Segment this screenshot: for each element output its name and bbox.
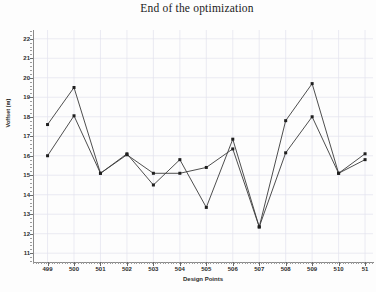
x-minor-tick: [372, 262, 373, 264]
x-minor-tick: [194, 262, 195, 264]
x-minor-tick: [242, 262, 243, 264]
y-tick-label: 14: [4, 192, 30, 198]
x-minor-tick: [340, 262, 341, 264]
y-minor-tick: [30, 144, 32, 145]
x-minor-tick: [67, 262, 68, 264]
y-minor-tick: [30, 66, 32, 67]
y-minor-tick: [30, 70, 32, 71]
x-minor-tick: [295, 262, 296, 264]
y-minor-tick: [30, 226, 32, 227]
x-minor-tick: [351, 262, 352, 264]
x-minor-tick: [120, 262, 121, 264]
x-minor-tick: [160, 262, 161, 264]
x-minor-tick: [118, 262, 119, 264]
y-tick-label: 18: [4, 114, 30, 120]
y-tick-label: 12: [4, 231, 30, 237]
x-minor-tick: [247, 262, 248, 264]
x-minor-tick: [36, 262, 37, 264]
x-minor-tick: [200, 262, 201, 264]
y-tick-label: 15: [4, 172, 30, 178]
y-minor-tick: [30, 50, 32, 51]
y-minor-tick: [30, 31, 32, 32]
y-minor-tick: [30, 132, 32, 133]
x-minor-tick: [54, 262, 55, 264]
x-minor-tick: [261, 262, 262, 264]
x-minor-tick: [184, 262, 185, 264]
x-minor-tick: [287, 262, 288, 264]
y-minor-tick: [30, 242, 32, 243]
x-minor-tick: [202, 262, 203, 264]
x-minor-tick: [321, 262, 322, 264]
x-tick-label: 51: [350, 266, 376, 272]
x-minor-tick: [81, 262, 82, 264]
x-minor-tick: [308, 262, 309, 264]
x-minor-tick: [306, 262, 307, 264]
y-minor-tick: [30, 113, 32, 114]
x-minor-tick: [300, 262, 301, 264]
y-minor-tick: [30, 86, 32, 87]
y-tick-label: 11: [4, 250, 30, 256]
x-minor-tick: [78, 262, 79, 264]
x-minor-tick: [107, 262, 108, 264]
x-minor-tick: [147, 262, 148, 264]
x-minor-tick: [115, 262, 116, 264]
x-minor-tick: [366, 262, 367, 264]
x-minor-tick: [186, 262, 187, 264]
x-minor-tick: [94, 262, 95, 264]
x-minor-tick: [313, 262, 314, 264]
x-minor-tick: [83, 262, 84, 264]
x-minor-tick: [245, 262, 246, 264]
y-minor-tick: [30, 74, 32, 75]
y-minor-tick: [30, 125, 32, 126]
y-minor-tick: [30, 183, 32, 184]
x-minor-tick: [49, 262, 50, 264]
x-minor-tick: [70, 262, 71, 264]
x-minor-tick: [316, 262, 317, 264]
x-minor-tick: [268, 262, 269, 264]
y-minor-tick: [30, 62, 32, 63]
x-minor-tick: [128, 262, 129, 264]
x-minor-tick: [298, 262, 299, 264]
y-minor-tick: [30, 199, 32, 200]
x-minor-tick: [353, 262, 354, 264]
y-tick-label: 22: [4, 36, 30, 42]
x-minor-tick: [152, 262, 153, 264]
y-minor-tick: [30, 167, 32, 168]
x-minor-tick: [59, 262, 60, 264]
y-minor-tick: [30, 245, 32, 246]
y-minor-tick: [30, 230, 32, 231]
x-minor-tick: [112, 262, 113, 264]
x-minor-tick: [329, 262, 330, 264]
x-minor-tick: [149, 262, 150, 264]
x-minor-tick: [73, 262, 74, 264]
x-minor-tick: [271, 262, 272, 264]
x-minor-tick: [276, 262, 277, 264]
x-minor-tick: [303, 262, 304, 264]
x-minor-tick: [361, 262, 362, 264]
y-minor-tick: [30, 148, 32, 149]
x-minor-tick: [97, 262, 98, 264]
y-minor-tick: [30, 203, 32, 204]
x-minor-tick: [155, 262, 156, 264]
y-minor-tick: [30, 210, 32, 211]
y-minor-tick: [30, 43, 32, 44]
y-minor-tick: [30, 171, 32, 172]
x-minor-tick: [179, 262, 180, 264]
x-minor-tick: [165, 262, 166, 264]
y-minor-tick: [30, 109, 32, 110]
y-minor-tick: [30, 218, 32, 219]
x-minor-tick: [263, 262, 264, 264]
x-minor-tick: [86, 262, 87, 264]
x-minor-tick: [157, 262, 158, 264]
x-minor-tick: [171, 262, 172, 264]
x-minor-tick: [356, 262, 357, 264]
y-tick-label: 13: [4, 211, 30, 217]
y-minor-tick: [30, 121, 32, 122]
y-minor-tick: [30, 222, 32, 223]
y-minor-tick: [30, 140, 32, 141]
x-minor-tick: [335, 262, 336, 264]
y-minor-tick: [30, 164, 32, 165]
x-minor-tick: [284, 262, 285, 264]
y-minor-tick: [30, 261, 32, 262]
x-minor-tick: [33, 262, 34, 264]
